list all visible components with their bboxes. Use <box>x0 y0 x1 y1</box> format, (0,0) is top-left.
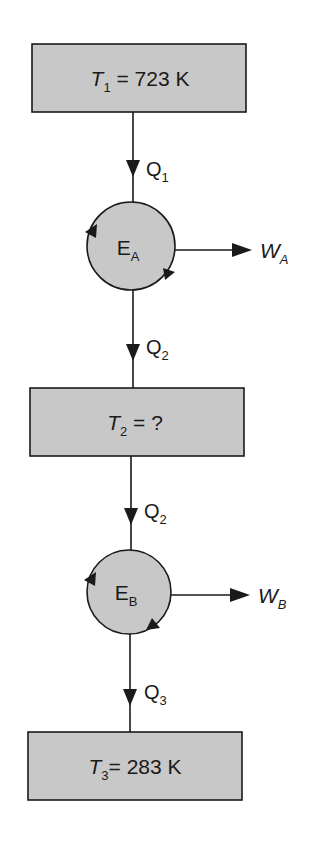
wa-sub: A <box>279 252 289 267</box>
svg-text:Q2: Q2 <box>144 500 167 527</box>
engine-ea: EA <box>85 202 175 290</box>
svg-text:Q1: Q1 <box>146 158 169 185</box>
q2-lower-symbol: Q <box>144 500 160 522</box>
svg-text:WA: WA <box>260 239 289 267</box>
work-output-wa: WA <box>175 239 289 267</box>
right-arrow-icon <box>232 243 252 257</box>
reservoir-t3-value: = 283 K <box>109 755 182 778</box>
reservoir-t2-sub: 2 <box>120 424 127 439</box>
heat-engine-diagram: T1 = 723 K Q1 EA WA Q2 T2 = ? <box>0 0 310 845</box>
down-arrow-icon <box>123 689 137 706</box>
wa-symbol: W <box>260 239 282 262</box>
wb-sub: B <box>278 597 287 612</box>
right-arrow-icon <box>230 588 250 602</box>
reservoir-t1-value: = 723 K <box>111 67 190 90</box>
svg-text:WB: WB <box>258 584 287 612</box>
down-arrow-icon <box>124 508 138 525</box>
down-arrow-icon <box>126 344 140 361</box>
reservoir-t3: T3= 283 K <box>28 732 242 800</box>
ea-symbol: E <box>117 236 131 259</box>
ea-sub: A <box>131 249 140 264</box>
down-arrow-icon <box>126 160 140 177</box>
reservoir-t2: T2 = ? <box>30 388 244 456</box>
engine-eb: EB <box>84 550 171 634</box>
eb-sub: B <box>129 594 138 609</box>
reservoir-t1-sub: 1 <box>103 80 110 95</box>
work-output-wb: WB <box>171 584 287 612</box>
q2-symbol: Q <box>146 336 162 358</box>
reservoir-t1: T1 = 723 K <box>32 44 246 112</box>
wb-symbol: W <box>258 584 280 607</box>
svg-text:Q3: Q3 <box>144 681 167 708</box>
reservoir-t2-value: = ? <box>127 411 163 434</box>
q1-sub: 1 <box>162 170 169 185</box>
svg-text:Q2: Q2 <box>146 336 169 363</box>
cycle-arrow-icon <box>163 268 175 280</box>
q2-lower-sub: 2 <box>160 512 167 527</box>
q1-symbol: Q <box>146 158 162 180</box>
eb-symbol: E <box>115 581 129 604</box>
q2-sub: 2 <box>162 348 169 363</box>
q3-symbol: Q <box>144 681 160 703</box>
q3-sub: 3 <box>160 693 167 708</box>
reservoir-t3-sub: 3 <box>101 768 108 783</box>
